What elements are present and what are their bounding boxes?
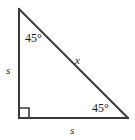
side-label-hypotenuse: x [75, 55, 80, 66]
triangle-hypotenuse [19, 9, 128, 118]
angle-label-top: 45° [25, 32, 42, 44]
triangle-figure: 45° 45° s s x [0, 0, 135, 140]
angle-label-bottom-right: 45° [92, 102, 109, 114]
right-angle-marker-icon [19, 108, 29, 118]
triangle-drawing [0, 0, 135, 140]
side-label-bottom-leg: s [70, 125, 74, 136]
side-label-left-leg: s [6, 65, 10, 76]
